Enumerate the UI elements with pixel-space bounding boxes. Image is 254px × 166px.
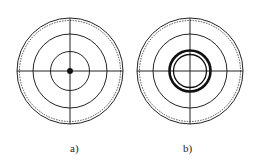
panel-a-diagram [17,18,123,124]
figure-canvas [0,0,254,166]
center-dot [67,68,73,74]
panel-a-label: a) [70,142,79,154]
panel-b-diagram [137,18,243,124]
panel-b-label: b) [183,142,192,154]
